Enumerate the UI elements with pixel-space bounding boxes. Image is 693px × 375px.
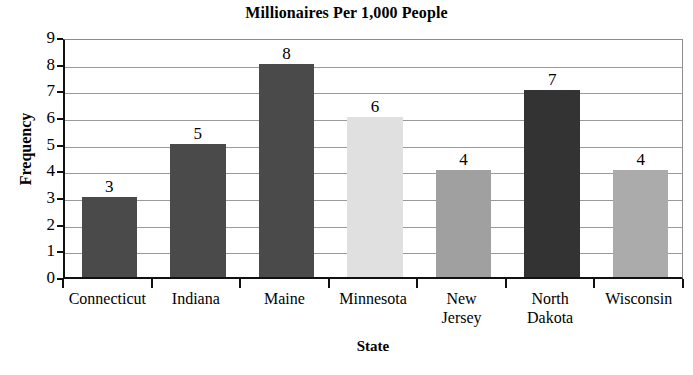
y-tick-mark <box>57 145 63 147</box>
x-tick-label-maine: Maine <box>240 289 329 308</box>
bar-connecticut[interactable] <box>82 197 137 277</box>
y-tick-mark <box>57 251 63 253</box>
x-tick-mark <box>505 279 507 288</box>
y-tick-label: 8 <box>29 55 55 75</box>
bar-north-dakota[interactable] <box>524 90 579 277</box>
x-tick-mark <box>682 279 684 288</box>
bar-value-label: 7 <box>508 70 597 90</box>
x-tick-label-line: Minnesota <box>329 289 418 308</box>
y-tick-mark <box>57 171 63 173</box>
y-tick-mark <box>57 91 63 93</box>
bar-minnesota[interactable] <box>347 117 402 277</box>
y-tick-mark <box>57 225 63 227</box>
bar-value-label: 4 <box>419 150 508 170</box>
y-tick-label: 4 <box>29 161 55 181</box>
x-tick-label-indiana: Indiana <box>152 289 241 308</box>
y-tick-label: 2 <box>29 215 55 235</box>
x-tick-mark <box>328 279 330 288</box>
y-tick-label: 3 <box>29 188 55 208</box>
x-tick-mark <box>151 279 153 288</box>
x-tick-label-line: Wisconsin <box>594 289 683 308</box>
x-tick-label-line: Maine <box>240 289 329 308</box>
bar-value-label: 6 <box>331 97 420 117</box>
x-tick-mark <box>239 279 241 288</box>
x-tick-label-minnesota: Minnesota <box>329 289 418 308</box>
x-tick-label-line: North <box>506 289 595 308</box>
x-tick-label-new-jersey: NewJersey <box>417 289 506 327</box>
gridline <box>65 67 682 68</box>
x-axis-title: State <box>63 338 683 355</box>
x-tick-mark <box>416 279 418 288</box>
y-tick-label: 1 <box>29 241 55 261</box>
x-tick-label-wisconsin: Wisconsin <box>594 289 683 308</box>
y-tick-mark <box>57 118 63 120</box>
x-tick-mark <box>593 279 595 288</box>
bar-value-label: 5 <box>154 124 243 144</box>
bar-value-label: 3 <box>65 177 154 197</box>
x-tick-label-line: New <box>417 289 506 308</box>
chart-title: Millionaires Per 1,000 People <box>0 4 693 22</box>
x-tick-label-connecticut: Connecticut <box>63 289 152 308</box>
y-tick-label: 5 <box>29 135 55 155</box>
y-tick-label: 7 <box>29 81 55 101</box>
bar-chart-figure: Millionaires Per 1,000 People Frequency … <box>0 0 693 375</box>
bar-maine[interactable] <box>259 64 314 277</box>
plot-area: 3586474 <box>63 39 683 279</box>
bar-value-label: 8 <box>242 44 331 64</box>
bar-indiana[interactable] <box>170 144 225 277</box>
x-tick-label-north-dakota: NorthDakota <box>506 289 595 327</box>
gridline <box>65 93 682 94</box>
x-tick-mark <box>62 279 64 288</box>
y-tick-label: 9 <box>29 28 55 48</box>
y-tick-mark <box>57 198 63 200</box>
y-tick-label: 6 <box>29 108 55 128</box>
x-tick-label-line: Connecticut <box>63 289 152 308</box>
bar-wisconsin[interactable] <box>613 170 668 277</box>
bar-new-jersey[interactable] <box>436 170 491 277</box>
y-tick-mark <box>57 38 63 40</box>
y-tick-label: 0 <box>29 268 55 288</box>
x-tick-label-line: Indiana <box>152 289 241 308</box>
x-tick-label-line: Jersey <box>417 308 506 327</box>
y-tick-mark <box>57 65 63 67</box>
bar-value-label: 4 <box>596 150 685 170</box>
x-tick-label-line: Dakota <box>506 308 595 327</box>
